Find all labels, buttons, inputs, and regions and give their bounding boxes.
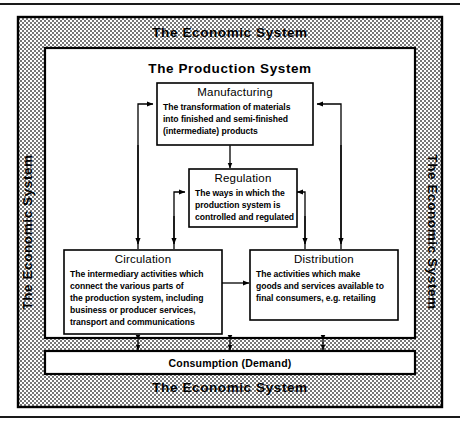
- distribution-line-3: final consumers, e.g. retailing: [256, 293, 376, 303]
- circulation-line-3: the production system, including: [70, 293, 204, 303]
- page-rule-top: [0, 3, 460, 5]
- manufacturing-line-2: into finished and semi-finished: [163, 114, 288, 124]
- distribution-title: Distribution: [294, 253, 354, 265]
- circulation-line-1: The intermediary activities which: [70, 269, 204, 279]
- box-regulation[interactable]: Regulation The ways in which the product…: [189, 169, 297, 227]
- box-manufacturing[interactable]: Manufacturing The transformation of mate…: [157, 83, 313, 145]
- regulation-line-1: The ways in which the: [195, 188, 285, 198]
- box-circulation[interactable]: Circulation The intermediary activities …: [64, 250, 222, 334]
- circulation-title: Circulation: [115, 253, 172, 265]
- regulation-line-3: controlled and regulated: [195, 212, 294, 222]
- box-consumption[interactable]: Consumption (Demand): [45, 351, 415, 374]
- manufacturing-line-3: (intermediate) products: [163, 126, 258, 136]
- circulation-line-5: transport and communications: [70, 317, 195, 327]
- box-distribution[interactable]: Distribution The activities which make g…: [250, 250, 398, 320]
- economic-system-left-label: The Economic System: [20, 154, 35, 309]
- page-rule-bottom: [0, 416, 460, 418]
- economic-system-top-label: The Economic System: [152, 25, 307, 40]
- manufacturing-line-1: The transformation of materials: [163, 102, 291, 112]
- economic-system-right-label: The Economic System: [425, 154, 440, 309]
- regulation-title: Regulation: [215, 172, 272, 184]
- regulation-line-2: production system is: [195, 200, 281, 210]
- economic-system-bottom-label: The Economic System: [152, 380, 307, 395]
- figure-canvas: The Economic System The Economic System …: [0, 0, 460, 423]
- consumption-title: Consumption (Demand): [169, 357, 292, 369]
- circulation-line-2: connect the various parts of: [70, 281, 184, 291]
- economic-system-diagram: The Economic System The Economic System …: [0, 0, 460, 423]
- manufacturing-title: Manufacturing: [197, 86, 272, 98]
- distribution-line-1: The activities which make: [256, 269, 361, 279]
- distribution-line-2: goods and services available to: [256, 281, 384, 291]
- circulation-line-4: business or producer services,: [70, 305, 196, 315]
- production-system-title: The Production System: [148, 61, 311, 76]
